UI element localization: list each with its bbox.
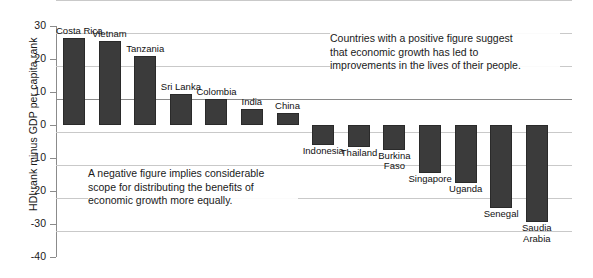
bar [241,109,263,126]
gridline [56,0,572,1]
y-axis-tick [50,257,56,258]
bar-label: India [242,97,263,108]
bar-label: China [275,101,300,112]
bar [383,125,405,150]
y-axis-tick-label: 10 [12,85,46,97]
bar [455,125,477,183]
bar [490,125,512,208]
bar-label: Uganda [449,184,482,195]
bar-label: Colombia [196,87,236,98]
bar-label: Saudia Arabia [516,223,558,244]
y-axis-tick-label: 0 [12,118,46,130]
bar [526,125,548,222]
bar-label: Singapore [409,174,452,185]
annotation-negative: A negative figure implies considerable s… [88,167,298,208]
bar-label: Thailand [341,148,377,159]
bar-label: Vietnam [92,29,127,40]
bar [419,125,441,173]
y-axis-tick-label: 20 [12,52,46,64]
y-axis-tick-label: 30 [12,19,46,31]
y-axis-tick-label: -10 [12,151,46,163]
bar-chart: HDI rank minus GDP per capita rank 30201… [0,0,593,278]
bar [348,125,370,147]
y-axis-tick-label: -20 [12,184,46,196]
bar-label: Senegal [484,209,519,220]
bar [134,56,156,125]
y-axis-tick-label: -30 [12,217,46,229]
bar [170,94,192,125]
bar-label: Indonesia [303,146,344,157]
bar [99,41,121,125]
bar-label: Burkina Faso [373,151,415,172]
bar [63,38,85,125]
bar-label: Tanzania [126,44,164,55]
bar [205,99,227,125]
annotation-positive: Countries with a positive figure suggest… [330,32,560,73]
bar [312,125,334,145]
bar-label: Sri Lanka [161,82,201,93]
bar [277,113,299,125]
y-axis-tick-label: -40 [12,250,46,262]
